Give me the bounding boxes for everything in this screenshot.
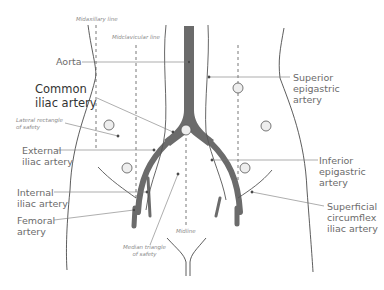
port-marker-right-lateral [261,121,271,131]
femoral-label: Femoral artery [17,215,55,237]
pubic-outline [167,238,206,276]
median-triangle-label: Median triangle of safety [123,244,166,258]
iliac-artery-right [211,143,240,212]
internal-iliac-right [216,198,220,216]
port-marker-left-lower [122,163,132,173]
port-marker-right-upper [233,83,243,93]
port-marker-umbilical [181,125,191,135]
circumflex-right [238,170,272,198]
leader-femoral [54,210,134,220]
aorta-label: Aorta [56,56,82,67]
port-marker-right-lower [240,163,250,173]
inferior-epigastric-label: Inferior epigastric artery [319,155,366,188]
leader-median-triangle [150,174,178,245]
common-iliac-label: Common iliac artery [35,82,97,110]
midline-label: Midline [176,228,196,235]
superficial-circumflex-label: Superficial circumflex iliac artery [327,201,378,234]
superior-epigastric-label: Superior epigastric artery [293,72,340,105]
leader-superficial-circumflex [252,192,324,206]
midaxillary-line-label: Midaxillary line [76,16,118,23]
midclavicular-line-label: Midclavicular line [112,34,160,41]
iliac-artery-left [138,143,167,212]
port-marker-left-lateral [104,120,114,130]
internal-iliac-label: Internal iliac artery [17,187,68,209]
body-outline-right [279,28,313,272]
lateral-rectangle-label: Lateral rectangle of safety [16,117,63,131]
external-iliac-label: External iliac artery [22,145,73,167]
epigastric-right [206,25,226,200]
